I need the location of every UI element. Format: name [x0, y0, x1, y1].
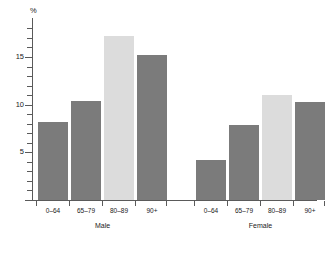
x-axis-tick	[135, 201, 136, 206]
plot-area	[33, 18, 317, 200]
y-axis-major-tick	[25, 105, 32, 106]
y-axis-tick-label: 10	[8, 101, 24, 109]
y-axis-tick-label: 15	[8, 53, 24, 61]
category-label: 90+	[131, 207, 173, 215]
y-axis-major-tick	[25, 152, 32, 153]
x-axis-tick	[293, 201, 294, 206]
y-axis-minor-tick	[27, 38, 32, 39]
y-axis-minor-tick	[27, 67, 32, 68]
y-axis-minor-tick	[27, 124, 32, 125]
bar	[295, 102, 325, 200]
bar	[137, 55, 167, 200]
x-axis-tick	[324, 201, 325, 206]
bar	[262, 95, 292, 200]
x-axis-line	[32, 200, 317, 201]
y-axis-minor-tick	[27, 171, 32, 172]
x-axis-tick	[260, 201, 261, 206]
y-axis-unit-label: %	[30, 7, 37, 15]
x-axis-tick	[227, 201, 228, 206]
y-axis-minor-tick	[27, 86, 32, 87]
y-axis-minor-tick	[27, 47, 32, 48]
bar	[71, 101, 101, 200]
x-axis-tick	[102, 201, 103, 206]
bar-chart: % 51015 0–6465–7980–8990+0–6465–7980–899…	[0, 0, 329, 256]
bar	[196, 160, 226, 200]
x-axis-tick	[36, 201, 37, 206]
x-axis-tick	[194, 201, 195, 206]
y-axis-minor-tick	[27, 133, 32, 134]
y-axis-minor-tick	[27, 76, 32, 77]
y-axis-minor-tick	[27, 95, 32, 96]
category-label: 90+	[289, 207, 329, 215]
y-axis-major-tick	[25, 200, 32, 201]
bar	[229, 125, 259, 200]
group-label: Male	[18, 222, 187, 230]
x-axis-tick	[166, 201, 167, 206]
y-axis-minor-tick	[27, 181, 32, 182]
bar	[38, 122, 68, 200]
y-axis-minor-tick	[27, 162, 32, 163]
y-axis-minor-tick	[27, 143, 32, 144]
y-axis-minor-tick	[27, 190, 32, 191]
bar	[104, 36, 134, 200]
group-label: Female	[176, 222, 329, 230]
y-axis-minor-tick	[27, 28, 32, 29]
y-axis-tick-label: 5	[8, 148, 24, 156]
x-axis-tick	[69, 201, 70, 206]
y-axis-minor-tick	[27, 114, 32, 115]
y-axis-major-tick	[25, 57, 32, 58]
